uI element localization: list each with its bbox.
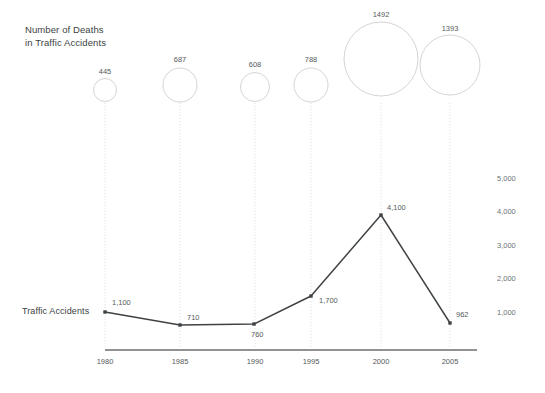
x-axis-tick-label: 1985 — [172, 357, 189, 366]
data-point-value-label: 1,100 — [112, 298, 131, 307]
bubble-value-label: 788 — [305, 55, 318, 64]
bubble-marker — [163, 68, 197, 102]
line-point-markers-group: 1,1007107601,7004,100962 — [103, 203, 468, 339]
data-point-marker[interactable] — [309, 294, 312, 297]
bubble-value-label: 608 — [249, 60, 262, 69]
bubble-value-label: 1393 — [442, 24, 459, 33]
y-axis-tick-label: 4,000 — [497, 207, 516, 216]
x-axis-tick-label: 1980 — [97, 357, 114, 366]
data-point-value-label: 1,700 — [319, 296, 338, 305]
x-axis-tick-label: 2000 — [373, 357, 390, 366]
y-axis-tick-label: 5,000 — [497, 174, 516, 183]
line-series-path — [105, 215, 450, 325]
y-axis-tick-label: 2,000 — [497, 274, 516, 283]
bubble-marker — [94, 79, 117, 102]
y-axis-tick-label: 1,000 — [497, 308, 516, 317]
chart-canvas: Number of Deaths in Traffic Accidents Tr… — [0, 0, 545, 393]
chart-plot-area: 44568760878814921393 1,1007107601,7004,1… — [0, 0, 545, 393]
x-axis-tick-labels-group: 198019851990199520002005 — [97, 357, 459, 366]
data-point-marker[interactable] — [178, 323, 181, 326]
x-axis-tick-label: 1995 — [303, 357, 320, 366]
data-point-marker[interactable] — [103, 310, 106, 313]
y-axis-tick-label: 3,000 — [497, 241, 516, 250]
data-point-marker[interactable] — [379, 213, 382, 216]
bubble-value-label: 1492 — [373, 10, 390, 19]
bubble-marker — [241, 73, 270, 102]
data-point-value-label: 4,100 — [387, 203, 406, 212]
data-point-value-label: 710 — [187, 313, 200, 322]
bubble-value-label: 687 — [174, 55, 187, 64]
data-point-value-label: 962 — [456, 310, 469, 319]
data-point-value-label: 760 — [251, 330, 264, 339]
line-series-group — [105, 215, 450, 325]
y-axis-tick-labels-group: 5,0004,0003,0002,0001,000 — [497, 174, 516, 317]
bubble-marker — [344, 22, 418, 96]
guide-lines-group — [105, 103, 450, 348]
data-point-marker[interactable] — [252, 322, 255, 325]
data-point-marker[interactable] — [448, 321, 451, 324]
bubble-marker — [294, 68, 328, 102]
bubble-series-group: 44568760878814921393 — [94, 10, 481, 102]
bubble-marker — [420, 35, 480, 95]
x-axis-tick-label: 2005 — [442, 357, 459, 366]
bubble-value-label: 445 — [99, 67, 112, 76]
x-axis-tick-label: 1990 — [247, 357, 264, 366]
